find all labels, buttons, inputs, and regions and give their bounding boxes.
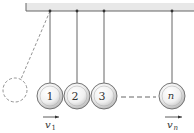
svg-text:1: 1: [47, 90, 54, 103]
ball-3: 3: [91, 83, 117, 109]
ball-1: 1: [37, 83, 63, 109]
svg-text:2: 2: [72, 90, 79, 103]
svg-text:1: 1: [52, 124, 56, 132]
svg-text:n: n: [174, 124, 179, 132]
svg-text:v: v: [167, 119, 173, 130]
svg-text:v: v: [45, 119, 51, 130]
ceiling-support: [26, 3, 194, 11]
strings: [49, 10, 174, 83]
ball-2: 2: [64, 83, 90, 109]
newtons-cradle-diagram: 1 2 3 n v 1 v n: [0, 0, 194, 133]
svg-text:n: n: [168, 90, 174, 101]
velocity-vn: v n: [165, 116, 182, 133]
ball-n: n: [159, 83, 185, 109]
svg-text:3: 3: [99, 90, 106, 103]
velocity-v1: v 1: [43, 116, 59, 133]
